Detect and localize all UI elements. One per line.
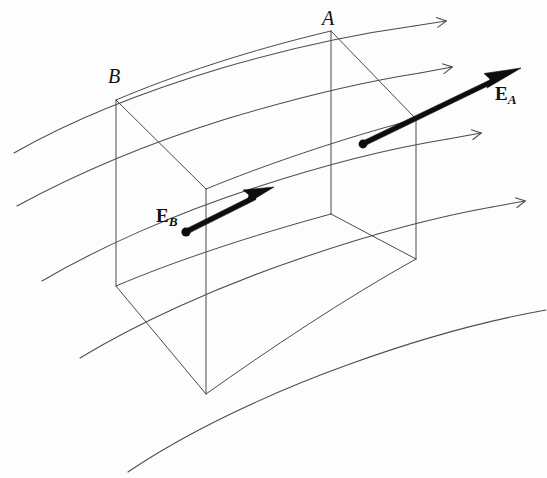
vector-EB-shaft [185,195,256,235]
box-edge-bottom-front [206,259,416,394]
box-edge-bottom-back [116,214,331,286]
label-point-a: A [322,8,334,28]
field-line-2-tail [420,67,452,73]
label-vector-eb: EB [156,206,178,228]
field-line-1-tail [414,21,446,26]
vector-EB-origin-dot [181,227,190,236]
field-lines-group [14,21,546,472]
box-edge-top-right-depth [331,31,416,119]
field-line-4 [80,207,492,358]
vector-EB-head [243,187,274,204]
figure-root: A B EA EB [0,0,547,478]
vector-EA-origin-dot [359,140,368,149]
vector-EA [359,68,521,148]
vector-EA-shaft [362,77,497,147]
box-edge-bottom-right-depth [331,214,416,259]
field-line-3-tail [448,133,481,139]
field-line-1 [14,26,414,153]
field-line-2 [17,73,420,206]
label-vector-eb-subscript: B [169,214,178,229]
vector-EB [181,187,274,237]
label-vector-eb-symbol: E [156,205,169,226]
field-line-4-tail [492,201,525,207]
box-edge-bottom-left-depth [116,286,206,394]
label-vector-ea: EA [495,84,517,106]
box-edge-top-back [116,31,331,100]
box-edge-top-front [206,119,416,189]
label-point-b: B [108,66,120,86]
label-vector-ea-subscript: A [508,92,517,107]
field-line-3 [42,139,448,281]
field-line-5 [128,310,546,472]
box-edge-top-left-depth [116,100,206,189]
label-vector-ea-symbol: E [495,83,508,104]
field-diagram-svg [0,0,547,478]
